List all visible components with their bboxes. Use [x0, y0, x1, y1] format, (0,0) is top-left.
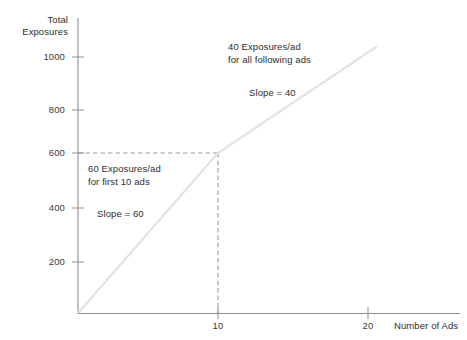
annotation-upper-slope: Slope = 40: [249, 87, 296, 100]
annotation-upper-rate-line2: for all following ads: [228, 54, 311, 67]
y-axis-title-line1: Total: [12, 14, 68, 27]
y-tick-label-600: 600: [19, 147, 65, 160]
annotation-lower-rate-line2: for first 10 ads: [88, 176, 150, 189]
annotation-upper-rate-line1: 40 Exposures/ad: [228, 41, 301, 54]
x-axis-title: Number of Ads: [394, 320, 458, 333]
y-tick-label-1000: 1000: [19, 51, 65, 64]
annotation-lower-rate-line1: 60 Exposures/ad: [88, 163, 161, 176]
y-tick-label-200: 200: [19, 256, 65, 269]
annotation-lower-slope: Slope = 60: [97, 208, 144, 221]
x-tick-label-10: 10: [198, 320, 238, 333]
y-axis-title-line2: Exposures: [12, 26, 68, 39]
x-tick-label-20: 20: [348, 320, 388, 333]
y-tick-label-800: 800: [19, 104, 65, 117]
exposures-chart: Total Exposures 1000 800 600 400 200 10 …: [0, 0, 467, 340]
y-tick-label-400: 400: [19, 202, 65, 215]
